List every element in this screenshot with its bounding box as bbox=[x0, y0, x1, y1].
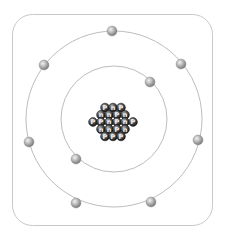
proton: P bbox=[109, 132, 118, 141]
electron bbox=[71, 198, 81, 208]
proton: P bbox=[117, 132, 126, 141]
svg-text:n: n bbox=[123, 126, 128, 134]
electron bbox=[107, 26, 117, 36]
electron bbox=[24, 137, 34, 147]
electron bbox=[145, 77, 155, 87]
svg-text:P: P bbox=[111, 133, 116, 141]
electron bbox=[176, 59, 186, 69]
electron bbox=[39, 60, 49, 70]
electron bbox=[193, 135, 203, 145]
proton: P bbox=[89, 118, 98, 127]
nucleus: PnPnnPnPPnPnPnnPnPPP bbox=[89, 103, 138, 141]
atom-diagram: PnPnnPnPPnPnPnnPnPPP bbox=[0, 0, 225, 234]
proton: P bbox=[101, 132, 110, 141]
svg-text:P: P bbox=[119, 133, 124, 141]
svg-text:P: P bbox=[91, 118, 96, 126]
proton: P bbox=[129, 118, 138, 127]
electron bbox=[71, 154, 81, 164]
svg-text:P: P bbox=[131, 118, 136, 126]
svg-text:P: P bbox=[103, 133, 108, 141]
electron bbox=[146, 197, 156, 207]
